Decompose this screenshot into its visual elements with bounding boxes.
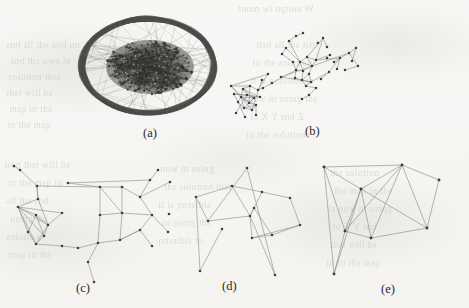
caption-a: (a) [143, 126, 157, 141]
caption-e: (e) [381, 282, 395, 297]
caption-d: (d) [222, 279, 237, 294]
caption-c: (c) [76, 281, 90, 296]
caption-b: (b) [305, 124, 320, 139]
panel-e-sparse-graph [0, 0, 469, 308]
figure-root: W uoitpu iw mootou bsit sdt lls busni nw… [0, 0, 469, 308]
